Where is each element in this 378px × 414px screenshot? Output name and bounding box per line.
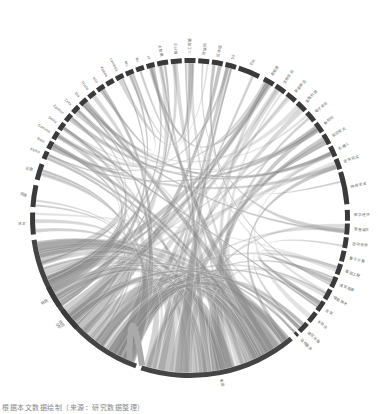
group-label: 虚拟现实	[343, 154, 360, 164]
group-label: 区块链	[216, 44, 223, 57]
group-label: 智慧城市	[353, 226, 369, 232]
group-label: 量子计算	[349, 255, 366, 264]
group-label: 智能制造	[293, 78, 307, 93]
group-arc	[184, 58, 195, 63]
group-label: Kappa	[99, 66, 108, 78]
group-label: 韩国	[40, 297, 49, 305]
group-label: 机器人	[337, 141, 350, 151]
group-label: 半导体	[316, 319, 328, 330]
group-label: Alpha	[29, 147, 40, 155]
group-arc	[238, 66, 260, 79]
group-arc	[157, 60, 169, 67]
group-arc	[30, 212, 36, 234]
group-label: 数字经济	[354, 212, 370, 217]
group-label: 人工智能	[187, 38, 192, 54]
group-arc	[135, 65, 144, 72]
group-label: Gamma	[37, 123, 51, 134]
group-label: 法国	[25, 165, 34, 172]
group-label: Xi	[146, 55, 151, 59]
group-label: Zeta	[64, 98, 73, 107]
group-label: Eta	[74, 91, 81, 98]
group-label: Iota	[92, 76, 99, 84]
group-label: Beta	[36, 137, 45, 144]
group-arc	[339, 250, 347, 262]
group-label: Nu	[135, 57, 140, 63]
group-label: 金融科技	[304, 89, 319, 104]
group-label: 大数据	[157, 44, 164, 57]
group-arc	[30, 185, 38, 207]
group-label: 物联网	[201, 42, 207, 54]
group-label: 电子商务	[314, 100, 329, 114]
group-label: 生物医药	[282, 69, 295, 85]
group-label: 美国	[219, 378, 225, 387]
group-label: 储能技术	[332, 295, 348, 307]
group-label: Lambda	[109, 57, 119, 72]
group-label: 基因工程	[344, 269, 361, 279]
group-label: 网络安全	[350, 181, 367, 189]
group-label: Mu	[123, 61, 129, 68]
group-arc	[105, 78, 115, 86]
group-label: Epsilon	[52, 104, 65, 115]
group-label: 日本	[18, 221, 26, 226]
group-label: 芯片	[249, 57, 257, 66]
chord-ribbons	[35, 63, 345, 373]
group-label: 光伏	[325, 307, 334, 316]
group-label: 新能源	[269, 64, 279, 77]
group-label: 航空航天	[331, 125, 347, 137]
group-arc	[342, 237, 349, 249]
group-label: 清洁能源	[339, 282, 356, 293]
group-label: 新材料	[323, 115, 336, 126]
group-label: 自动驾驶	[352, 241, 369, 248]
chord-diagram: 中国美国日本韩国德国英国法国AlphaBetaGammaDeltaEpsilon…	[0, 0, 378, 414]
group-label: 软件服务	[299, 337, 313, 352]
group-label: 英国	[19, 191, 28, 197]
group-arc	[198, 58, 209, 64]
figure-caption: 根据本文数据绘制（来源：研究数据整理）	[2, 402, 145, 412]
group-arc	[345, 210, 350, 221]
group-arc	[171, 58, 182, 64]
group-label: 通信设备	[307, 330, 322, 345]
group-label: 5G	[230, 54, 235, 60]
group-label: 云计算	[173, 42, 179, 54]
group-arc	[338, 171, 349, 204]
group-label: Delta	[48, 116, 58, 125]
group-label: Theta	[79, 80, 89, 91]
group-arc	[344, 223, 350, 234]
